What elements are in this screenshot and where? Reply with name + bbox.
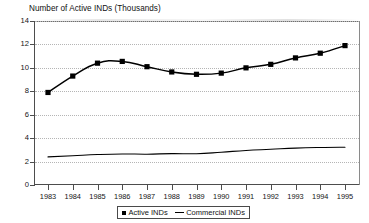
gridline — [35, 115, 359, 116]
x-axis-label: 1995 — [330, 192, 360, 201]
gridline — [35, 21, 359, 22]
line-marker-icon — [175, 212, 184, 213]
chart-legend: Active INDs Commercial INDs — [117, 206, 250, 219]
gridline — [35, 68, 359, 69]
plot-right-border — [359, 21, 360, 185]
y-axis-tick — [30, 162, 35, 163]
y-axis-label: 8 — [7, 87, 29, 95]
y-axis-label: 14 — [7, 17, 29, 25]
gridline — [35, 162, 359, 163]
x-axis-tick — [172, 185, 173, 190]
legend-item-commercial-inds: Commercial INDs — [175, 209, 245, 217]
x-axis-tick — [147, 185, 148, 190]
x-axis-tick — [320, 185, 321, 190]
x-axis-tick — [271, 185, 272, 190]
square-marker-icon — [122, 211, 126, 215]
legend-label-commercial-inds: Commercial INDs — [186, 209, 245, 217]
y-axis-tick — [30, 21, 35, 22]
y-axis-label: 2 — [7, 158, 29, 166]
y-axis-label: 10 — [7, 64, 29, 72]
x-axis-tick — [296, 185, 297, 190]
y-axis-label: 4 — [7, 134, 29, 142]
x-axis-tick — [197, 185, 198, 190]
x-axis-tick — [345, 185, 346, 190]
legend-item-active-inds: Active INDs — [122, 209, 168, 217]
y-axis-label: 12 — [7, 40, 29, 48]
gridline — [35, 44, 359, 45]
y-axis-label: 6 — [7, 111, 29, 119]
gridline — [35, 138, 359, 139]
y-axis-tick — [30, 115, 35, 116]
y-axis-tick — [30, 44, 35, 45]
gridline — [35, 91, 359, 92]
x-axis-tick — [122, 185, 123, 190]
x-axis-tick — [246, 185, 247, 190]
y-axis-tick — [30, 138, 35, 139]
x-axis-tick — [73, 185, 74, 190]
y-axis-tick — [30, 185, 35, 186]
x-axis-tick — [221, 185, 222, 190]
chart-title: Number of Active INDs (Thousands) — [29, 4, 161, 14]
plot-area — [34, 21, 360, 185]
x-axis-tick — [48, 185, 49, 190]
y-axis-tick — [30, 68, 35, 69]
y-axis-tick — [30, 91, 35, 92]
x-axis-tick — [98, 185, 99, 190]
y-axis-label: 0 — [7, 181, 29, 189]
chart-container: Number of Active INDs (Thousands) 141210… — [0, 0, 369, 223]
legend-label-active-inds: Active INDs — [129, 209, 168, 217]
